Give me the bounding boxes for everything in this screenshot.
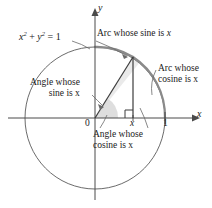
circle-equation-label: x2 + y2 = 1 xyxy=(19,28,61,42)
y-axis-label: y xyxy=(98,2,102,13)
angle-sine-line1: Angle whose xyxy=(30,77,80,88)
arc-cosine-line2: cosine is x xyxy=(158,74,199,85)
x-axis-label: x xyxy=(197,108,201,119)
right-angle-marker xyxy=(125,110,133,118)
equation-equals-one: = 1 xyxy=(48,31,61,42)
arc-sine-var: x xyxy=(167,28,171,38)
equation-exp-2: 2 xyxy=(42,30,45,37)
label-arc-whose-sine-is-x: Arc whose sine is x xyxy=(97,28,171,39)
unit-circle-figure: x2 + y2 = 1 Arc whose sine is x Arc whos… xyxy=(0,0,212,208)
label-angle-whose-cosine-is-x: Angle whose cosine is x xyxy=(93,129,143,151)
equation-exp-1: 2 xyxy=(23,30,26,37)
leader-equation xyxy=(72,41,90,49)
equation-plus: + xyxy=(29,31,35,42)
tick-label-x: x xyxy=(130,118,134,128)
label-arc-whose-cosine-is-x: Arc whose cosine is x xyxy=(158,63,199,85)
leader-angle-sine xyxy=(92,95,103,106)
tick-label-origin: 0 xyxy=(85,118,90,128)
angle-cosine-line2: cosine is x xyxy=(93,140,143,151)
angle-cosine-line1: Angle whose xyxy=(93,129,143,140)
arc-cosine-line1: Arc whose xyxy=(158,63,199,74)
label-angle-whose-sine-is-x: Angle whose sine is x xyxy=(30,77,80,99)
tick-label-unit: 1 xyxy=(163,118,168,128)
arc-sine-text: Arc whose sine is xyxy=(97,28,164,38)
angle-sine-line2: sine is x xyxy=(30,88,80,99)
